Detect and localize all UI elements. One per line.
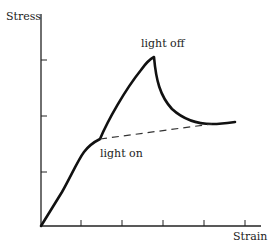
x-axis-label: Strain (233, 231, 267, 242)
stress-strain-diagram: Stress Strain light off light on (0, 0, 270, 247)
diagram-canvas (0, 0, 270, 247)
dashed-baseline (100, 124, 212, 139)
x-ticks (81, 220, 245, 226)
y-ticks (41, 60, 47, 172)
light-on-annotation: light on (100, 148, 143, 159)
light-off-annotation: light off (141, 38, 185, 49)
stress-curve (41, 57, 235, 226)
y-axis-label: Stress (6, 11, 41, 22)
